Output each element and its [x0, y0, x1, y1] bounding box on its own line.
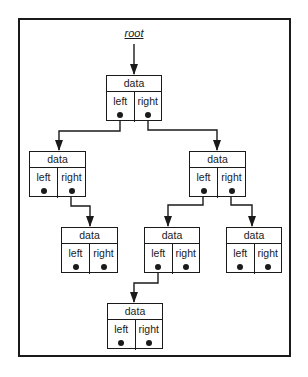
node-left-pointer: left [145, 244, 173, 274]
pointer-dot-icon [117, 112, 123, 118]
node-left-pointer: left [190, 168, 218, 198]
pointer-dot-icon [118, 340, 124, 346]
left-label: left [36, 171, 50, 183]
pointer-dot-icon [146, 340, 152, 346]
pointer-dot-icon [237, 264, 243, 270]
node-left-pointer: left [62, 244, 90, 274]
node-right-pointer: right [135, 92, 162, 122]
pointer-dot-icon [73, 264, 79, 270]
node-right-pointer: right [255, 244, 282, 274]
node-left-pointer: left [227, 244, 255, 274]
pointer-dot-icon [101, 264, 107, 270]
node-data-field: data [62, 228, 117, 244]
left-label: left [196, 171, 210, 183]
pointer-dot-icon [69, 188, 75, 194]
tree-node-inner: data left right [144, 227, 200, 273]
right-label: right [176, 247, 196, 259]
node-data-field: data [107, 76, 161, 92]
node-data-field: data [145, 228, 199, 244]
pointer-dot-icon [265, 264, 271, 270]
node-left-pointer: left [107, 92, 135, 122]
right-label: right [138, 95, 158, 107]
node-right-pointer: right [90, 244, 117, 274]
node-left-pointer: left [108, 320, 136, 350]
left-label: left [114, 323, 128, 335]
tree-node-leaf: data left right [61, 227, 118, 273]
right-label: right [93, 247, 113, 259]
node-right-pointer: right [58, 168, 85, 198]
tree-node-root: data left right [106, 75, 162, 121]
tree-node-left-child: data left right [29, 151, 86, 197]
right-label: right [139, 323, 159, 335]
left-label: left [68, 247, 82, 259]
tree-node-right-child: data left right [189, 151, 246, 197]
tree-node-leaf: data left right [107, 303, 163, 349]
left-label: left [113, 95, 127, 107]
node-right-pointer: right [136, 320, 163, 350]
right-label: right [61, 171, 81, 183]
pointer-dot-icon [145, 112, 151, 118]
pointer-dot-icon [201, 188, 207, 194]
tree-node-leaf: data left right [226, 227, 282, 273]
node-right-pointer: right [173, 244, 200, 274]
right-label: right [221, 171, 241, 183]
node-data-field: data [190, 152, 245, 168]
pointer-dot-icon [229, 188, 235, 194]
node-right-pointer: right [218, 168, 245, 198]
left-label: left [233, 247, 247, 259]
node-data-field: data [30, 152, 85, 168]
pointer-dot-icon [183, 264, 189, 270]
diagram-canvas: root [0, 0, 308, 377]
right-label: right [258, 247, 278, 259]
node-data-field: data [108, 304, 162, 320]
edge-root-to-n1 [130, 44, 138, 75]
left-label: left [151, 247, 165, 259]
pointer-dot-icon [41, 188, 47, 194]
node-left-pointer: left [30, 168, 58, 198]
node-data-field: data [227, 228, 281, 244]
pointer-dot-icon [155, 264, 161, 270]
